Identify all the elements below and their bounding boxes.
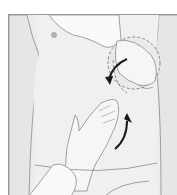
illustration-frame <box>8 14 177 195</box>
palpation-illustration <box>9 15 177 195</box>
nipple <box>51 32 57 38</box>
